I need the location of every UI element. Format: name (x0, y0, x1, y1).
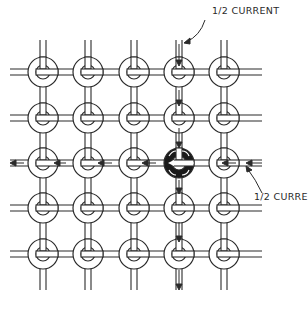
right-current-label: 1/2 CURRENT (254, 191, 308, 202)
right-leader-arrowhead-icon (246, 166, 252, 172)
top-leader-arrowhead-icon (184, 38, 190, 44)
core-memory-diagram: 1/2 CURRENT 1/2 CURRENT (0, 0, 308, 314)
top-current-label: 1/2 CURRENT (212, 5, 279, 16)
right-leader-line (247, 168, 262, 193)
